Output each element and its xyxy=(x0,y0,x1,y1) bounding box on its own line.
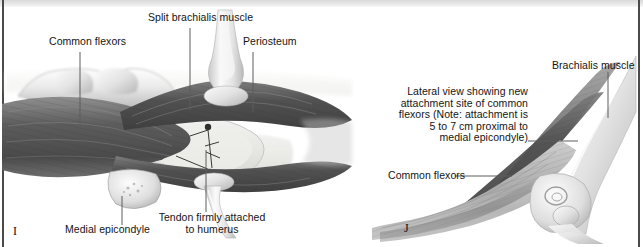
label-split-brachialis-muscle: Split brachialis muscle xyxy=(148,12,253,24)
label-common-flexors-j: Common flexors xyxy=(388,170,465,182)
elbow-condyle-lateral xyxy=(530,173,591,232)
label-brachialis-muscle: Brachialis muscle xyxy=(552,60,635,72)
label-common-flexors-i: Common flexors xyxy=(49,36,126,48)
label-periosteum: Periosteum xyxy=(243,36,297,48)
label-tendon-attached-to-humerus: Tendon firmly attached to humerus xyxy=(156,212,268,235)
brachialis-tendon-upper xyxy=(204,10,248,106)
panel-letter-j: J xyxy=(404,222,409,234)
figure-container: Common flexors Split brachialis muscle P… xyxy=(0,0,643,247)
panel-letter-i: I xyxy=(13,225,17,237)
label-lateral-view-note: Lateral view showing new attachment site… xyxy=(396,86,528,144)
label-medial-epicondyle: Medial epicondyle xyxy=(65,224,150,236)
medial-epicondyle-bone xyxy=(108,169,161,208)
